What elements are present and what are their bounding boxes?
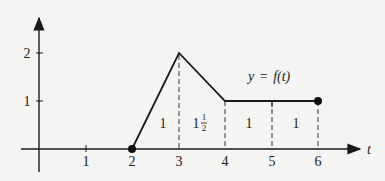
area-label-3-4-frac-num: 1	[202, 112, 207, 122]
x-axis-label: t	[367, 142, 372, 157]
area-label-3-4-frac-den: 2	[202, 123, 207, 133]
x-tick-label-6: 6	[315, 154, 322, 169]
x-tick-label-5: 5	[269, 154, 276, 169]
x-tick-label-4: 4	[222, 154, 229, 169]
x-tick-label-2: 2	[129, 154, 136, 169]
area-label-4-5: 1	[246, 116, 253, 131]
chart: 1 2 1 2 3 4 5 6 t y = f(t) 1 1 1 2 1 1	[0, 0, 385, 181]
area-label-3-4-whole: 1	[193, 116, 200, 131]
x-tick-label-3: 3	[176, 154, 183, 169]
area-label-5-6: 1	[293, 116, 300, 131]
function-label: y = f(t)	[246, 69, 291, 85]
y-tick-label-2: 2	[24, 46, 31, 61]
y-tick-label-1: 1	[24, 94, 31, 109]
x-tick-label-1: 1	[83, 154, 90, 169]
endpoint-start	[128, 145, 136, 153]
endpoint-end	[314, 97, 322, 105]
area-label-2-3: 1	[160, 116, 167, 131]
